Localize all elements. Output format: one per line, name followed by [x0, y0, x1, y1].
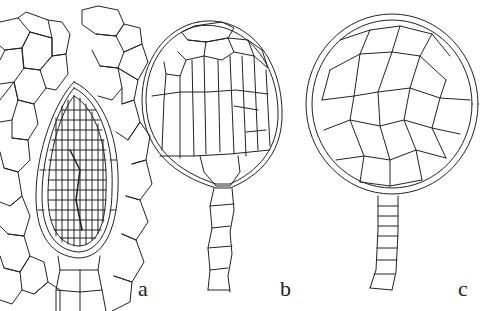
panel-c: c: [300, 0, 489, 311]
panel-b-drawing: [130, 0, 310, 311]
panel-c-drawing: [300, 0, 489, 311]
panel-b: b: [130, 0, 310, 311]
botanical-figure: a: [0, 0, 489, 311]
panel-label-c: c: [458, 278, 468, 300]
panel-label-b: b: [280, 278, 291, 300]
